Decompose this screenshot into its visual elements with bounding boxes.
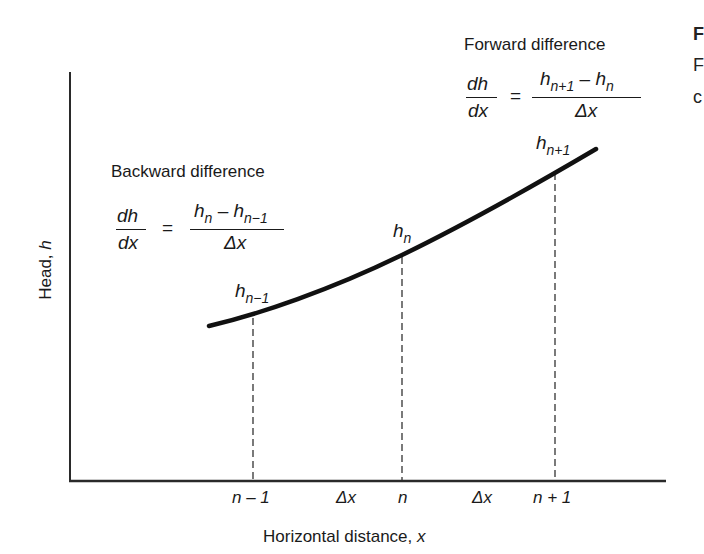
backward-rhs-fraction-bar: [190, 229, 284, 230]
tick-label-delta-x-1: Δx: [336, 488, 356, 508]
forward-rhs-fraction-bar: [532, 97, 641, 98]
forward-difference-title: Forward difference: [464, 35, 605, 55]
backward-rhs-denominator: Δx: [224, 232, 246, 254]
forward-rhs-denominator: Δx: [575, 100, 597, 122]
numerator-term-sub: n: [205, 210, 213, 226]
x-axis-label: Horizontal distance, x: [263, 527, 426, 547]
numerator-term-base: h: [595, 68, 606, 89]
backward-equals-sign: =: [162, 217, 173, 239]
numerator-term-base: h: [194, 200, 205, 221]
cropped-text-line-3: c: [693, 87, 702, 108]
numerator-term-sub: n+1: [551, 78, 575, 94]
y-axis-label-var: h: [36, 240, 55, 249]
y-axis-label-text: Head,: [36, 250, 55, 300]
forward-lhs-denominator: dx: [468, 100, 488, 122]
minus-sign: –: [212, 200, 233, 221]
forward-equals-sign: =: [510, 85, 521, 107]
forward-rhs-numerator: hn+1 – hn: [540, 68, 614, 90]
point-label-base: h: [235, 280, 246, 301]
numerator-term-sub: n: [606, 78, 614, 94]
tick-label-delta-x-2: Δx: [472, 488, 492, 508]
tick-label-n-plus-1: n + 1: [533, 488, 571, 508]
numerator-term-base: h: [234, 200, 245, 221]
x-axis-label-var: x: [417, 527, 426, 546]
backward-lhs-numerator: dh: [117, 205, 138, 227]
forward-lhs-fraction-bar: [466, 97, 497, 98]
point-label-base: h: [536, 132, 547, 153]
point-label-sub: n+1: [547, 142, 571, 158]
tick-label-n: n: [398, 488, 407, 508]
backward-lhs-fraction-bar: [116, 229, 146, 230]
point-label-sub: n: [404, 230, 412, 246]
point-label-h-n-plus-1: hn+1: [536, 132, 570, 154]
point-label-h-n: hn: [393, 220, 411, 242]
y-axis-label: Head, h: [36, 240, 56, 300]
x-axis-label-text: Horizontal distance,: [263, 527, 417, 546]
backward-difference-title: Backward difference: [111, 162, 265, 182]
cropped-text-line-2: F: [693, 55, 704, 76]
point-label-sub: n−1: [246, 290, 270, 306]
point-label-base: h: [393, 220, 404, 241]
tick-label-n-minus-1: n – 1: [232, 488, 270, 508]
backward-lhs-denominator: dx: [118, 232, 138, 254]
forward-lhs-numerator: dh: [467, 73, 488, 95]
backward-rhs-numerator: hn – hn−1: [194, 200, 268, 222]
numerator-term-base: h: [540, 68, 551, 89]
minus-sign: –: [574, 68, 595, 89]
numerator-term-sub: n−1: [244, 210, 268, 226]
point-label-h-n-minus-1: hn−1: [235, 280, 269, 302]
cropped-text-line-1: F: [693, 24, 704, 45]
